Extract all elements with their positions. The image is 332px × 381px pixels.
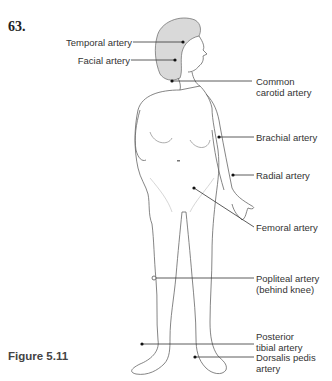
label-line: carotid artery (256, 87, 311, 98)
label-facial-artery: Facial artery (20, 55, 130, 66)
label-common-carotid-artery: Common carotid artery (256, 76, 311, 98)
figure-caption: Figure 5.11 (8, 350, 68, 362)
label-temporal-artery: Temporal artery (20, 37, 132, 48)
label-radial-artery: Radial artery (256, 170, 310, 181)
label-line: (behind knee) (256, 284, 319, 295)
label-line: Common (256, 76, 311, 87)
label-brachial-artery: Brachial artery (256, 132, 317, 143)
label-posterior-tibial-artery: Posterior tibial artery (256, 331, 302, 353)
label-popliteal-artery: Popliteal artery (behind knee) (256, 273, 319, 295)
label-line: artery (256, 363, 316, 374)
label-line: Dorsalis pedis (256, 352, 316, 363)
label-dorsalis-pedis-artery: Dorsalis pedis artery (256, 352, 316, 374)
label-femoral-artery: Femoral artery (256, 222, 318, 233)
label-line: Posterior (256, 331, 302, 342)
label-line: Popliteal artery (256, 273, 319, 284)
